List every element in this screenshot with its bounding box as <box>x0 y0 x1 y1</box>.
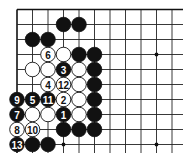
star-point-icon <box>62 143 66 147</box>
black-stone <box>41 137 56 152</box>
white-stone-10: 10 <box>25 122 40 137</box>
black-stone-11: 11 <box>41 92 56 107</box>
move-number: 6 <box>45 50 51 61</box>
white-stone-icon <box>72 107 87 122</box>
white-stone-icon <box>72 92 87 107</box>
black-stone-icon <box>41 32 56 47</box>
move-number: 9 <box>14 95 20 106</box>
white-stone-8: 8 <box>10 122 25 137</box>
black-stone-icon <box>87 107 102 122</box>
white-stone <box>25 62 40 77</box>
black-stone-icon <box>56 17 71 32</box>
white-stone <box>72 62 87 77</box>
white-stone-12: 12 <box>56 77 71 92</box>
black-stone-icon <box>72 122 87 137</box>
white-stone-6: 6 <box>41 47 56 62</box>
move-number: 13 <box>11 140 23 151</box>
white-stone-icon <box>25 107 40 122</box>
move-number: 4 <box>45 80 51 91</box>
white-stone-icon <box>41 62 56 77</box>
black-stone <box>72 122 87 137</box>
black-stone-icon <box>87 47 102 62</box>
white-stone-4: 4 <box>41 77 56 92</box>
move-number: 1 <box>61 110 67 121</box>
black-stone <box>41 32 56 47</box>
white-stone-icon <box>41 107 56 122</box>
move-number: 8 <box>14 125 20 136</box>
white-stone-icon <box>72 77 87 92</box>
black-stone-icon <box>25 32 40 47</box>
black-stone-13: 13 <box>10 137 25 152</box>
go-board: 63412951127181013 <box>0 0 191 159</box>
black-stone-7: 7 <box>10 107 25 122</box>
black-stone-3: 3 <box>56 62 71 77</box>
black-stone-icon <box>87 62 102 77</box>
move-number: 5 <box>30 95 36 106</box>
black-stone <box>25 137 40 152</box>
black-stone <box>56 122 71 137</box>
black-stone-1: 1 <box>56 107 71 122</box>
white-stone-2: 2 <box>56 92 71 107</box>
black-stone-5: 5 <box>25 92 40 107</box>
white-stone <box>72 107 87 122</box>
move-number: 3 <box>61 65 67 76</box>
white-stone <box>41 107 56 122</box>
move-number: 10 <box>27 125 39 136</box>
black-stone-icon <box>25 137 40 152</box>
move-number: 12 <box>58 80 70 91</box>
black-stone <box>87 77 102 92</box>
black-stone <box>87 107 102 122</box>
white-stone <box>41 62 56 77</box>
move-number: 7 <box>14 110 20 121</box>
black-stone <box>87 47 102 62</box>
black-stone-9: 9 <box>10 92 25 107</box>
black-stone-icon <box>56 122 71 137</box>
black-stone-icon <box>87 77 102 92</box>
black-stone <box>72 17 87 32</box>
black-stone-icon <box>72 47 87 62</box>
white-stone-icon <box>72 62 87 77</box>
black-stone <box>25 32 40 47</box>
black-stone <box>72 47 87 62</box>
black-stone <box>56 17 71 32</box>
white-stone <box>25 107 40 122</box>
white-stone-icon <box>25 62 40 77</box>
black-stone-icon <box>41 137 56 152</box>
black-stone <box>87 122 102 137</box>
white-stone-icon <box>56 47 71 62</box>
black-stone-icon <box>72 17 87 32</box>
black-stone <box>87 92 102 107</box>
white-stone <box>56 47 71 62</box>
white-stone <box>72 92 87 107</box>
star-point-icon <box>155 53 159 57</box>
star-point-icon <box>155 143 159 147</box>
move-number: 2 <box>61 95 67 106</box>
white-stone <box>72 77 87 92</box>
black-stone <box>87 62 102 77</box>
black-stone-icon <box>87 92 102 107</box>
move-number: 11 <box>43 95 54 106</box>
black-stone-icon <box>87 122 102 137</box>
